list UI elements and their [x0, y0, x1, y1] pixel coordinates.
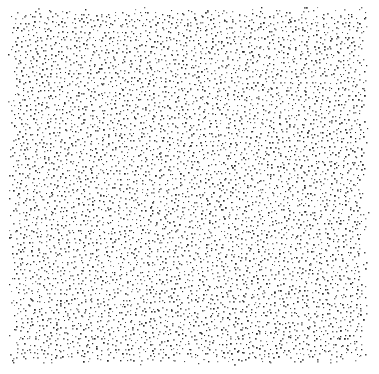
stipple-dot-pattern	[0, 0, 379, 374]
